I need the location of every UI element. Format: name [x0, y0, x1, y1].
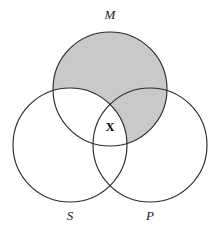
- shade-fill-rect: [0, 0, 219, 232]
- venn-diagram-canvas: M S P X: [0, 0, 219, 232]
- set-label-m: M: [104, 7, 117, 22]
- venn-diagram-container: M S P X: [0, 0, 219, 232]
- set-label-s: S: [67, 208, 74, 223]
- shaded-region-m-minus-s: [0, 0, 219, 232]
- x-mark-label: X: [106, 120, 115, 134]
- set-label-p: P: [145, 208, 154, 223]
